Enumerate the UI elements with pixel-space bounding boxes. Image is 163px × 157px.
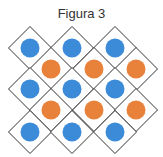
- blue-circle: [63, 80, 82, 99]
- blue-circle: [21, 123, 40, 142]
- blue-circle: [21, 39, 40, 58]
- blue-circle: [63, 39, 82, 58]
- blue-circle: [63, 123, 82, 142]
- blue-circle: [106, 80, 125, 99]
- blue-circle: [106, 123, 125, 142]
- diamond-grid: [0, 0, 163, 157]
- orange-circle: [85, 101, 104, 120]
- orange-circle: [42, 101, 61, 120]
- orange-circle: [42, 60, 61, 79]
- orange-circle: [127, 60, 146, 79]
- blue-circle: [106, 39, 125, 58]
- orange-circle: [85, 60, 104, 79]
- orange-circle: [127, 101, 146, 120]
- blue-circle: [21, 80, 40, 99]
